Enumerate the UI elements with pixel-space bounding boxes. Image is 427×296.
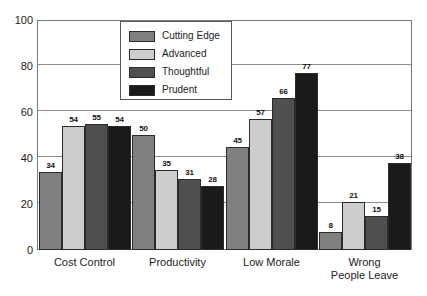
legend-label: Thoughtful [162,67,209,77]
bar [178,179,201,250]
legend-swatch-icon [129,67,155,78]
bar [249,119,272,250]
bar-value-label: 66 [279,88,288,96]
bar-value-label: 55 [92,114,101,122]
bar-chart: 020406080100 345455545035312845576677821… [0,0,427,296]
bar-value-label: 54 [115,116,124,124]
legend-label: Cutting Edge [162,31,220,41]
bar-value-label: 54 [69,116,78,124]
legend-item: Thoughtful [121,63,231,81]
category-label-line: Wrong [319,256,410,269]
bar [272,98,295,250]
y-axis-tick-label: 100 [3,15,33,26]
legend-swatch-icon [129,85,155,96]
bar-value-label: 31 [185,169,194,177]
category-label-line: Low Morale [226,256,317,269]
bar-value-label: 34 [46,162,55,170]
bar-value-label: 35 [162,160,171,168]
x-axis-category-label: Productivity [132,256,223,269]
y-axis-tick-label: 0 [3,245,33,256]
bar [155,170,178,251]
bar [342,202,365,250]
bar [85,124,108,251]
bar-group: 45576677 [226,20,317,250]
bar-value-label: 45 [233,137,242,145]
bar-value-label: 50 [139,125,148,133]
bar [226,147,249,251]
bar [295,73,318,250]
bar-value-label: 57 [256,109,265,117]
bar [132,135,155,250]
bar-value-label: 28 [208,176,217,184]
bar-group: 34545554 [39,20,130,250]
bar [201,186,224,250]
x-axis-category-label: WrongPeople Leave [319,256,410,282]
bar-group: 8211538 [319,20,410,250]
x-axis-category-label: Low Morale [226,256,317,269]
bar-value-label: 15 [372,206,381,214]
bar [319,232,342,250]
legend-item: Cutting Edge [121,27,231,45]
category-label-line: Productivity [132,256,223,269]
bar [62,126,85,250]
legend-item: Advanced [121,45,231,63]
x-axis-category-label: Cost Control [39,256,130,269]
legend-label: Prudent [162,85,197,95]
y-axis-tick-label: 20 [3,199,33,210]
bar [39,172,62,250]
y-axis: 020406080100 [0,0,33,296]
legend-item: Prudent [121,81,231,99]
legend-swatch-icon [129,49,155,60]
bar-value-label: 38 [395,153,404,161]
category-label-line: People Leave [319,269,410,282]
bar-value-label: 77 [302,63,311,71]
y-axis-tick-label: 60 [3,107,33,118]
bar [108,126,131,250]
x-axis-category-labels: Cost ControlProductivityLow MoraleWrongP… [37,256,412,294]
legend-swatch-icon [129,31,155,42]
legend: Cutting EdgeAdvancedThoughtfulPrudent [120,21,232,100]
bar-value-label: 21 [349,192,358,200]
category-label-line: Cost Control [39,256,130,269]
bar [388,163,411,250]
legend-label: Advanced [162,49,206,59]
y-axis-tick-label: 40 [3,153,33,164]
bar-value-label: 8 [328,222,332,230]
bar [365,216,388,251]
y-axis-tick-label: 80 [3,61,33,72]
